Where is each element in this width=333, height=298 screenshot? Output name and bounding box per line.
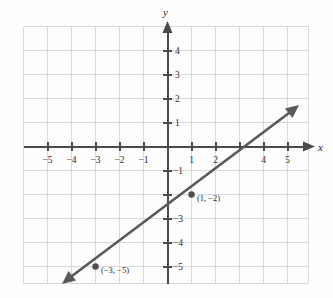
x-tick-label: 1 [189,155,194,165]
x-tick-label: −4 [66,155,76,165]
y-tick-label: −1 [173,166,183,176]
x-tick-label: 5 [285,155,290,165]
y-tick-label: −3 [173,214,183,224]
x-axis-label: x [317,141,323,153]
y-tick-label: 3 [175,70,180,80]
point-labels: (1, −2) (−3, −5) [101,193,220,275]
y-tick-label: −4 [173,238,183,248]
y-tick-label: 2 [175,94,180,104]
y-axis [163,21,173,284]
x-tick-label: −5 [42,155,52,165]
x-axis [24,142,316,152]
x-tick-label: −3 [90,155,100,165]
y-tick-label: 4 [175,46,180,56]
point-marker-neg3-neg5 [92,263,98,269]
x-tick-label: 2 [213,155,218,165]
x-tick-label: −1 [138,155,148,165]
point-label-neg3-neg5: (−3, −5) [101,265,129,275]
y-tick-label: −5 [173,262,183,272]
y-axis-label: y [162,6,168,18]
x-tick-label: −2 [114,155,124,165]
x-tick-label: 4 [261,155,266,165]
point-marker-1-neg2 [188,191,194,197]
y-tick-labels: 4 3 2 1 −1 −3 −4 −5 [173,46,183,272]
x-tick-labels: −5 −4 −3 −2 −1 1 2 4 5 [42,155,290,165]
y-tick-label: 1 [175,118,180,128]
coordinate-plane-figure: −5 −4 −3 −2 −1 1 2 4 5 4 3 2 1 −1 −3 −4 … [0,0,333,298]
point-label-1-neg2: (1, −2) [197,193,220,203]
graph-canvas: −5 −4 −3 −2 −1 1 2 4 5 4 3 2 1 −1 −3 −4 … [0,0,333,298]
